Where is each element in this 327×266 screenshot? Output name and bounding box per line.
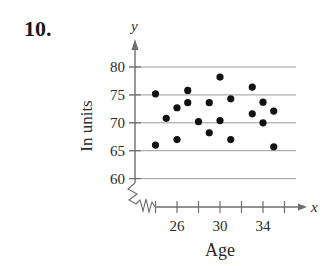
data-point (173, 136, 180, 143)
x-ticks: 263034 (156, 201, 285, 234)
data-point (206, 99, 213, 106)
y-tick-label: 80 (110, 59, 125, 75)
x-arrow-icon (298, 204, 307, 211)
y-axis-letter: y (129, 18, 138, 34)
data-point (152, 142, 159, 149)
x-axis-break-icon (136, 199, 155, 212)
data-point (249, 110, 256, 117)
data-point (163, 115, 170, 122)
data-point (270, 107, 277, 114)
y-ticks: 6065707580 (110, 59, 141, 187)
data-point (249, 83, 256, 90)
data-point (184, 99, 191, 106)
axes: yx (128, 18, 318, 215)
x-axis-letter: x (310, 199, 318, 215)
y-tick-label: 75 (110, 87, 125, 103)
data-point (206, 129, 213, 136)
data-point (152, 90, 159, 97)
gridlines (129, 67, 296, 179)
y-tick-label: 70 (110, 115, 125, 131)
y-arrow-icon (132, 39, 139, 50)
y-tick-label: 65 (110, 143, 125, 159)
data-point (216, 117, 223, 124)
data-point (259, 99, 266, 106)
data-points (152, 73, 277, 150)
data-point (216, 73, 223, 80)
data-point (227, 136, 234, 143)
data-point (184, 87, 191, 94)
data-point (173, 104, 180, 111)
scatter-plot: yx 6065707580 263034 (0, 0, 327, 266)
data-point (195, 118, 202, 125)
y-tick-label: 60 (110, 171, 125, 187)
data-point (259, 119, 266, 126)
data-point (227, 95, 234, 102)
x-tick-label: 30 (213, 218, 228, 234)
y-axis-break-icon (128, 183, 137, 204)
x-tick-label: 26 (170, 218, 186, 234)
data-point (270, 143, 277, 150)
x-tick-label: 34 (256, 218, 272, 234)
